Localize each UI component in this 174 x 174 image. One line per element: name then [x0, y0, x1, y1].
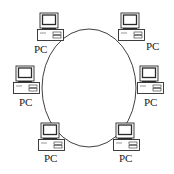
drive-bay — [153, 85, 161, 88]
drive-bay — [153, 89, 161, 92]
cpu-case — [39, 140, 65, 151]
pc-label: PC — [44, 152, 57, 164]
monitor-screen — [124, 15, 137, 25]
pc-label: PC — [144, 96, 157, 108]
drive-bay — [134, 36, 142, 39]
pc-label: PC — [34, 43, 47, 55]
drive-bay — [129, 146, 137, 149]
monitor-screen — [44, 125, 57, 135]
drive-bay — [54, 146, 62, 149]
cpu-case — [114, 140, 140, 151]
drive-bay — [134, 32, 142, 35]
pc-label: PC — [19, 96, 32, 108]
drive-bay — [53, 32, 61, 35]
cpu-case — [14, 83, 40, 94]
cpu-case — [38, 30, 64, 41]
cpu-case — [138, 83, 164, 94]
monitor-screen — [143, 68, 156, 78]
pc-label: PC — [146, 40, 159, 52]
drive-bay — [53, 36, 61, 39]
drive-bay — [129, 142, 137, 145]
monitor-screen — [19, 68, 32, 78]
monitor-screen — [119, 125, 132, 135]
cpu-case — [119, 30, 145, 41]
drive-bay — [29, 89, 37, 92]
pc-label: PC — [119, 152, 132, 164]
ring-topology-diagram: PCPCPCPCPCPC — [0, 0, 174, 174]
drive-bay — [29, 85, 37, 88]
monitor-screen — [43, 15, 56, 25]
drive-bay — [54, 142, 62, 145]
